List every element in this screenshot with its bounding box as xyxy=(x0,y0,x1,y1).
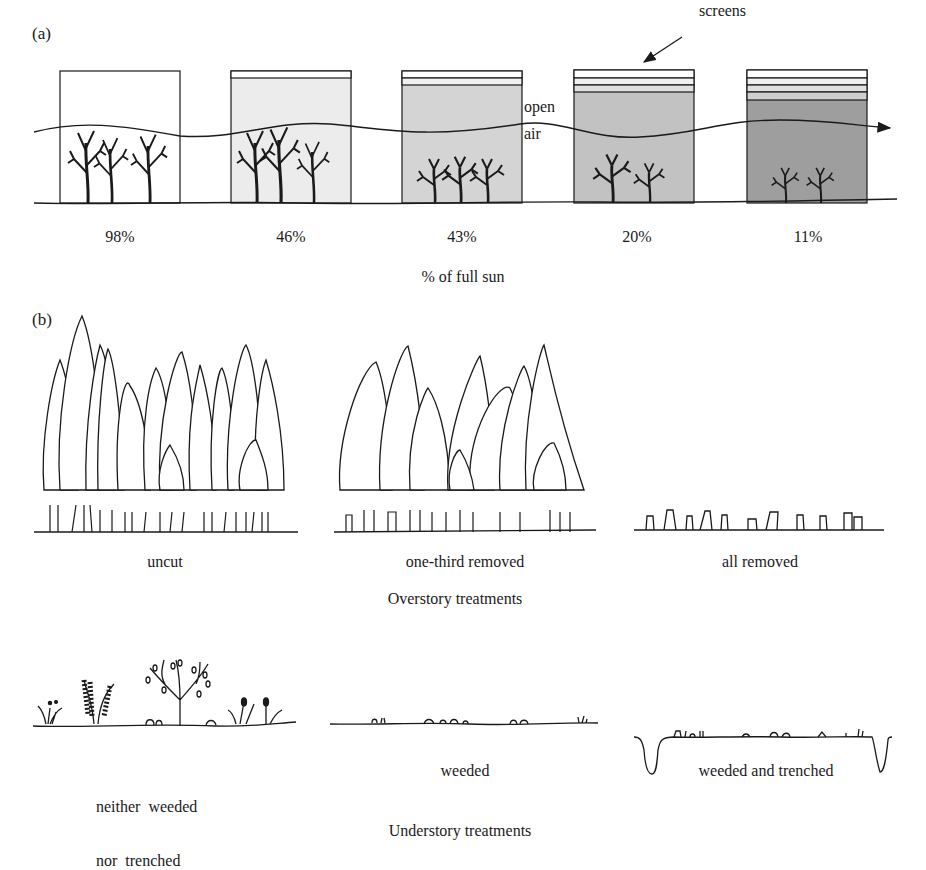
understory-label-neither-line2: nor trenched xyxy=(96,852,260,870)
callout-screens: screens xyxy=(699,2,746,20)
understory-label-neither-line1: neither weeded xyxy=(96,798,260,816)
sun-box-98 xyxy=(60,71,180,203)
ground-line-one-third xyxy=(334,530,596,532)
forest-one-third-removed xyxy=(340,345,584,490)
overstory-label-one-third-removed: one-third removed xyxy=(360,553,570,571)
understory-label-weeded: weeded xyxy=(415,762,515,780)
understory-label-neither: neither weeded nor trenched xyxy=(60,762,260,870)
overstory-label-all-removed: all removed xyxy=(680,553,840,571)
percent-label-box-3: 43% xyxy=(422,228,502,246)
percent-label-box-5: 11% xyxy=(768,228,848,246)
percent-label-box-1: 98% xyxy=(80,228,160,246)
sun-box-43 xyxy=(402,71,522,203)
sun-box-11 xyxy=(747,70,867,203)
callout-air: air xyxy=(524,125,541,143)
understory-unweeded xyxy=(33,660,296,726)
percent-label-box-2: 46% xyxy=(251,228,331,246)
screens-arrow xyxy=(644,37,682,62)
overstory-title: Overstory treatments xyxy=(340,590,570,608)
stumps-all-removed xyxy=(634,510,884,530)
trunks-uncut xyxy=(50,505,268,532)
axis-caption-full-sun: % of full sun xyxy=(363,268,563,286)
callout-open: open xyxy=(524,98,555,116)
understory-label-weeded-trenched: weeded and trenched xyxy=(656,762,876,780)
overstory-label-uncut: uncut xyxy=(90,553,240,571)
forest-uncut xyxy=(43,316,284,490)
percent-label-box-4: 20% xyxy=(597,228,677,246)
understory-weeded xyxy=(330,716,598,725)
understory-title: Understory treatments xyxy=(345,822,575,840)
panel-b-label: (b) xyxy=(32,310,52,330)
trunks-one-third xyxy=(346,510,570,532)
